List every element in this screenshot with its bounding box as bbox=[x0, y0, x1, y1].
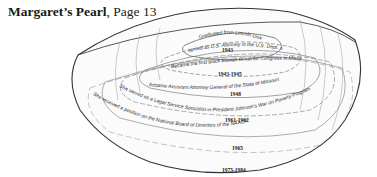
ring-1-year: 1943 bbox=[222, 47, 233, 53]
ring-6-year: 1975-1984 bbox=[222, 167, 246, 173]
ring-3-year: 1948 bbox=[230, 91, 241, 97]
clam-shell-illustration: Graduated from Lincoln University School… bbox=[0, 0, 377, 177]
ring-5-year: 1965 bbox=[232, 145, 243, 151]
ring-2-year: 1943-1945 bbox=[218, 71, 242, 77]
